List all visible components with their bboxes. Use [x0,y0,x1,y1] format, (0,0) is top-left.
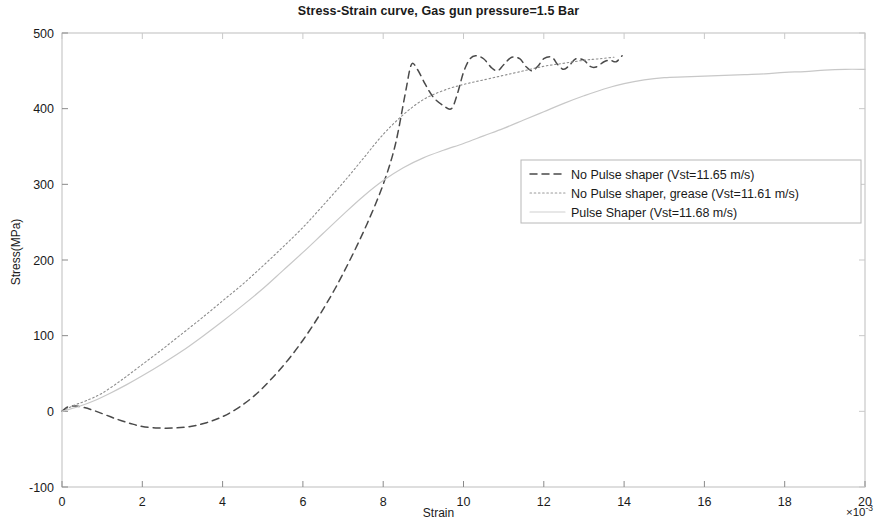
series-line-1 [62,56,622,428]
y-tick-label: 300 [33,178,54,192]
legend-label-1: No Pulse shaper (Vst=11.65 m/s) [571,168,755,182]
y-tick-label: -100 [29,481,54,495]
legend-label-2: No Pulse shaper, grease (Vst=11.61 m/s) [571,187,799,201]
axes-group: 02468101214161820-1000100200300400500 [29,27,872,510]
axes-frame [62,33,865,487]
x-tick-label: 0 [59,495,66,509]
legend-box: No Pulse shaper (Vst=11.65 m/s)No Pulse … [521,160,861,223]
y-tick-label: 400 [33,102,54,116]
x-tick-label: 6 [299,495,306,509]
y-tick-label: 0 [47,405,54,419]
x-tick-label: 8 [380,495,387,509]
x-tick-label: 4 [219,495,226,509]
series-line-2 [62,57,614,411]
x-tick-label: 12 [537,495,551,509]
x-tick-label: 16 [697,495,711,509]
figure-container: Stress-Strain curve, Gas gun pressure=1.… [0,0,877,531]
y-tick-label: 100 [33,329,54,343]
plot-canvas: 02468101214161820-1000100200300400500 No… [0,0,877,531]
x-tick-label: 10 [457,495,471,509]
x-tick-label: 18 [778,495,792,509]
series-line-3 [62,69,865,411]
x-tick-label: 2 [139,495,146,509]
y-tick-label: 200 [33,254,54,268]
curves-group [62,56,865,428]
x-tick-label: 20 [858,495,872,509]
legend-label-3: Pulse Shaper (Vst=11.68 m/s) [571,206,737,220]
x-tick-label: 14 [617,495,631,509]
y-tick-label: 500 [33,27,54,41]
